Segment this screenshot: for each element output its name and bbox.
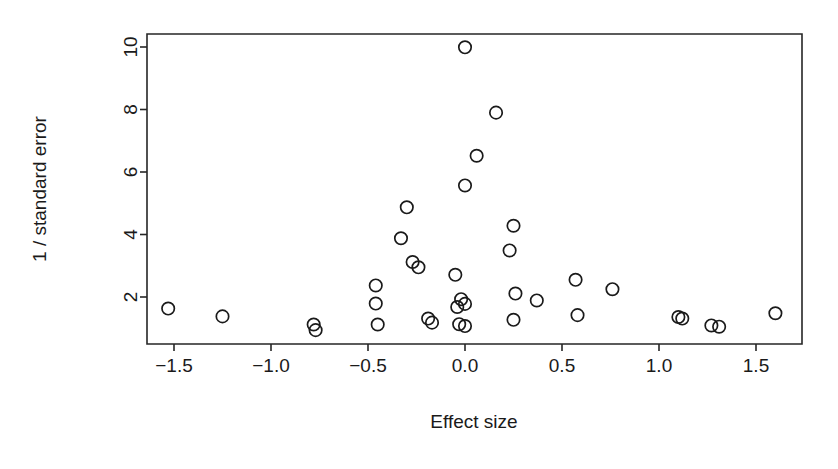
data-point-marker (676, 312, 688, 324)
data-point-marker (370, 297, 382, 309)
scatter-plot-canvas: −1.5−1.0−0.50.00.51.01.5 246810 Effect s… (0, 0, 838, 469)
x-tick-label: 1.0 (646, 355, 672, 376)
data-point-marker (569, 274, 581, 286)
y-axis-ticks (140, 47, 147, 297)
funnel-plot-figure: −1.5−1.0−0.50.00.51.01.5 246810 Effect s… (0, 0, 838, 469)
data-point-marker (459, 179, 471, 191)
x-tick-label: −1.5 (155, 355, 193, 376)
x-axis-title: Effect size (430, 411, 517, 432)
x-tick-label: −0.5 (349, 355, 387, 376)
data-point-marker (606, 283, 618, 295)
data-point-marker (449, 269, 461, 281)
x-tick-label: 0.5 (549, 355, 575, 376)
data-point-marker (531, 294, 543, 306)
data-point-marker (571, 309, 583, 321)
data-point-marker (507, 220, 519, 232)
y-tick-label: 10 (120, 36, 141, 57)
data-point-marker (370, 279, 382, 291)
data-point-marker (451, 301, 463, 313)
data-point-marker (470, 150, 482, 162)
x-tick-label: 1.5 (743, 355, 769, 376)
x-tick-label: 0.0 (452, 355, 478, 376)
data-point-marker (769, 307, 781, 319)
y-tick-label: 4 (120, 229, 141, 240)
x-tick-label: −1.0 (252, 355, 290, 376)
data-point-marker (509, 287, 521, 299)
data-point-marker (713, 320, 725, 332)
data-point-marker (490, 106, 502, 118)
x-axis-ticks (174, 344, 756, 351)
data-point-marker (395, 232, 407, 244)
x-axis-tick-labels: −1.5−1.0−0.50.00.51.01.5 (155, 355, 769, 376)
y-axis-tick-labels: 246810 (120, 36, 141, 302)
data-point-marker (459, 41, 471, 53)
data-point-marker (162, 302, 174, 314)
y-tick-label: 2 (120, 292, 141, 303)
data-point-marker (401, 201, 413, 213)
y-tick-label: 6 (120, 167, 141, 178)
y-tick-label: 8 (120, 104, 141, 115)
data-point-marker (503, 244, 515, 256)
y-axis-title: 1 / standard error (29, 115, 50, 261)
plot-frame (147, 34, 802, 344)
data-point-marker (372, 318, 384, 330)
data-points-layer (162, 41, 782, 336)
data-point-marker (507, 314, 519, 326)
data-point-marker (216, 310, 228, 322)
axis-box-line (147, 34, 802, 344)
